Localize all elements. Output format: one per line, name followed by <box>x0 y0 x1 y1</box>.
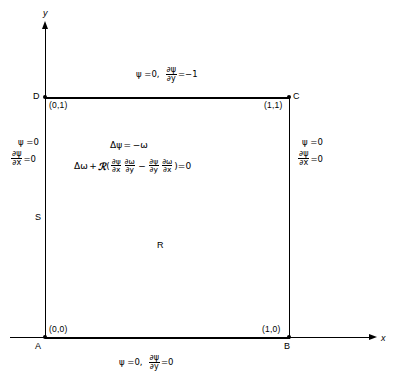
top-bc-deriv-denominator: ∂y <box>166 74 177 83</box>
left-bc-derivative-row: ∂ψ ∂x =0 <box>10 151 36 168</box>
vorticity-minus: − <box>138 161 146 171</box>
vorticity-term2-numerator: ∂ω <box>124 158 136 166</box>
vertex-dot-a <box>43 335 47 339</box>
left-bc-deriv-numerator: ∂ψ <box>11 150 22 158</box>
vorticity-plus: + <box>89 161 97 171</box>
left-boundary-condition: ψ =0 ∂ψ ∂x =0 <box>10 138 39 168</box>
bottom-bc-value: =0 <box>161 358 174 368</box>
vertex-label-b: B <box>284 341 290 351</box>
y-axis-arrowhead <box>42 21 48 29</box>
right-bc-deriv-denominator: ∂x <box>298 158 309 167</box>
poisson-equation: Δ ψ = −ω <box>110 140 148 150</box>
vorticity-equals-zero: =0 <box>178 161 191 171</box>
right-bc-deriv-numerator: ∂ψ <box>298 150 309 158</box>
vorticity-term4-numerator: ∂ω <box>161 158 173 166</box>
vertex-label-c: C <box>293 91 300 101</box>
coord-label-d: (0,1) <box>49 100 67 110</box>
top-bc-derivative: ∂ψ ∂y <box>166 66 177 83</box>
top-bc-psi: ψ =0, <box>136 70 160 80</box>
reynolds-number-symbol: ℛ <box>98 161 106 172</box>
poisson-equals: = <box>124 140 132 150</box>
right-boundary-condition: ψ =0 ∂ψ ∂x =0 <box>297 138 323 168</box>
top-bc-value: =−1 <box>178 70 198 80</box>
vorticity-term3-denominator: ∂y <box>149 165 159 174</box>
left-bc-psi: ψ =0 <box>18 138 39 148</box>
square-right-edge <box>289 97 291 338</box>
left-bc-deriv-denominator: ∂x <box>11 158 22 167</box>
bottom-bc-psi: ψ =0, <box>119 358 143 368</box>
coord-label-a: (0,0) <box>49 324 67 334</box>
coord-label-b: (1,0) <box>262 324 280 334</box>
vertex-dot-c <box>287 95 291 99</box>
square-bottom-edge <box>45 337 290 339</box>
right-bc-psi: ψ =0 <box>302 138 323 148</box>
vorticity-open-paren: ( <box>106 161 110 171</box>
vorticity-term3-numerator: ∂ψ <box>148 158 159 166</box>
top-bc-deriv-numerator: ∂ψ <box>166 66 177 74</box>
vorticity-term1-numerator: ∂ψ <box>111 158 122 166</box>
bottom-bc-deriv-denominator: ∂y <box>149 362 160 371</box>
vorticity-term3: ∂ψ ∂y <box>148 158 159 174</box>
vertex-label-a: A <box>35 341 41 351</box>
vorticity-transport-equation: Δ ω + ℛ ( ∂ψ ∂x ∂ω ∂y − ∂ψ ∂y ∂ω ∂x ) =0 <box>74 158 191 174</box>
vorticity-term4-denominator: ∂x <box>162 165 172 174</box>
bottom-bc-derivative: ∂ψ ∂y <box>149 354 160 371</box>
square-top-edge <box>45 97 290 99</box>
bottom-boundary-condition: ψ =0, ∂ψ ∂y =0 <box>119 354 174 371</box>
vorticity-term1-denominator: ∂x <box>111 165 121 174</box>
top-boundary-condition: ψ =0, ∂ψ ∂y =−1 <box>136 66 198 83</box>
bvp-figure: y x D C A B (0,1) (1,1) (0,0) (1,0) R S … <box>0 0 397 387</box>
vertex-dot-d <box>43 95 47 99</box>
right-bc-value: =0 <box>310 155 323 165</box>
vorticity-omega: ω <box>80 161 88 171</box>
x-axis-arrowhead <box>369 334 377 340</box>
vertex-dot-b <box>287 335 291 339</box>
poisson-psi: ψ <box>116 140 122 150</box>
right-bc-derivative-row: ∂ψ ∂x =0 <box>297 151 323 168</box>
poisson-rhs: −ω <box>133 140 148 150</box>
square-left-edge <box>45 97 47 338</box>
right-bc-derivative: ∂ψ ∂x <box>298 150 309 167</box>
left-bc-derivative: ∂ψ ∂x <box>11 150 22 167</box>
y-axis-label: y <box>43 8 48 18</box>
x-axis-label: x <box>381 333 386 343</box>
boundary-label-s: S <box>35 212 41 222</box>
vertex-label-d: D <box>33 91 40 101</box>
vorticity-term2: ∂ω ∂y <box>124 158 136 174</box>
vorticity-term4: ∂ω ∂x <box>161 158 173 174</box>
vorticity-term2-denominator: ∂y <box>125 165 135 174</box>
bottom-bc-deriv-numerator: ∂ψ <box>149 354 160 362</box>
coord-label-c: (1,1) <box>264 100 282 110</box>
vorticity-term1: ∂ψ ∂x <box>111 158 122 174</box>
region-label-r: R <box>157 240 164 250</box>
left-bc-value: =0 <box>23 155 36 165</box>
